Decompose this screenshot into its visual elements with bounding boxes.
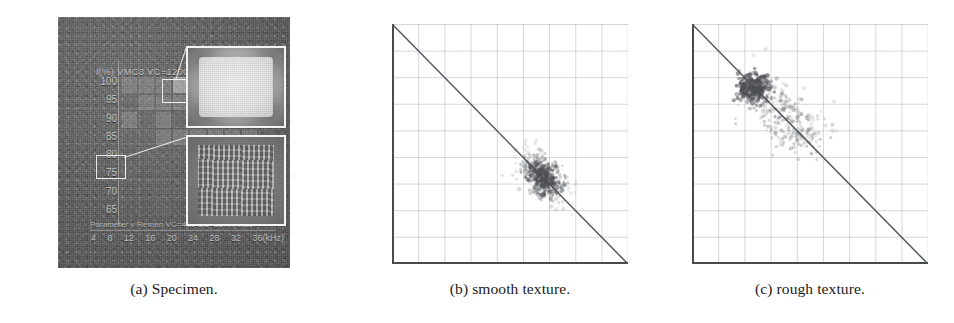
rough-texture-cluster — [692, 24, 928, 264]
x-tick-8: 36(kHz) — [252, 233, 284, 243]
x-tick-0: 4 — [91, 233, 96, 243]
y-tick-6: 70 — [85, 187, 117, 197]
specimen-cell — [139, 112, 154, 128]
selection-box-rough — [96, 155, 126, 179]
y-tick-2: 90 — [85, 114, 117, 124]
specimen-y-axis: 100 95 90 85 80 75 70 65 — [85, 77, 117, 215]
y-tick-7: 65 — [85, 205, 117, 215]
x-tick-2: 12 — [124, 233, 134, 243]
x-tick-3: 16 — [145, 233, 155, 243]
smooth-texture-cluster — [392, 24, 628, 264]
y-tick-3: 85 — [85, 132, 117, 142]
specimen-cell — [156, 165, 171, 181]
specimen-x-axis: 4 8 12 16 20 24 28 32 36(kHz) — [91, 233, 284, 243]
specimen-cell — [139, 130, 154, 146]
specimen-cell — [122, 182, 137, 198]
caption-panel-a: (a) Specimen. — [58, 280, 290, 298]
x-tick-5: 24 — [188, 233, 198, 243]
specimen-cell — [122, 200, 137, 216]
specimen-cell — [156, 200, 171, 216]
specimen-cell — [122, 130, 137, 146]
rough-texture-surface — [188, 137, 284, 224]
specimen-cell — [122, 112, 137, 128]
specimen-cell — [139, 182, 154, 198]
x-tick-1: 8 — [107, 233, 112, 243]
specimen-cell — [122, 95, 137, 111]
panel-rough-texture-plot — [692, 24, 928, 264]
caption-panel-b: (b) smooth texture. — [392, 280, 628, 298]
specimen-cell — [139, 200, 154, 216]
specimen-photograph: I(%) VMC3 VC=1200 l/ 100 95 90 85 80 75 … — [58, 17, 290, 268]
specimen-horizontal-axis-rule — [90, 230, 276, 231]
specimen-cell — [122, 77, 137, 93]
x-tick-7: 32 — [231, 233, 241, 243]
figure-container: I(%) VMC3 VC=1200 l/ 100 95 90 85 80 75 … — [0, 0, 954, 323]
x-tick-4: 20 — [167, 233, 177, 243]
specimen-cell — [139, 77, 154, 93]
specimen-cell — [156, 112, 171, 128]
y-tick-1: 95 — [85, 95, 117, 105]
smooth-texture-surface — [188, 48, 284, 126]
specimen-cell — [139, 165, 154, 181]
specimen-vertical-axis-rule — [118, 61, 119, 226]
caption-panel-c: (c) rough texture. — [692, 280, 928, 298]
x-tick-6: 28 — [210, 233, 220, 243]
specimen-cell — [139, 95, 154, 111]
panel-smooth-texture-plot — [392, 24, 628, 264]
panel-specimen-photo: I(%) VMC3 VC=1200 l/ 100 95 90 85 80 75 … — [58, 17, 290, 268]
y-tick-0: 100 — [85, 77, 117, 87]
smooth-texture-inset — [186, 46, 286, 128]
specimen-cell — [156, 182, 171, 198]
specimen-cell — [156, 147, 171, 163]
rough-texture-inset — [186, 135, 286, 226]
